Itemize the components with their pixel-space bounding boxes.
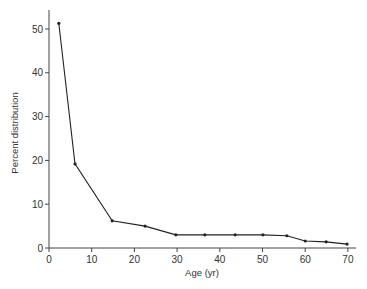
series-line [59,23,347,244]
data-point [304,239,307,242]
x-tick-label: 60 [300,254,312,265]
data-point [143,225,146,228]
y-tick-label: 10 [32,199,44,210]
y-axis-label: Percent distribution [9,92,20,173]
data-point [203,233,206,236]
line-chart: 01020304050 010203040506070 Age (yr) Per… [0,0,367,289]
data-point [325,240,328,243]
data-point [174,233,177,236]
x-tick-label: 20 [129,254,141,265]
data-point [57,22,60,25]
x-tick-label: 70 [342,254,354,265]
x-axis-label: Age (yr) [185,267,219,278]
data-point [73,162,76,165]
data-point [261,233,264,236]
x-tick-label: 0 [46,254,52,265]
y-axis: 01020304050 [32,10,49,254]
y-tick-label: 30 [32,111,44,122]
x-tick-label: 30 [172,254,184,265]
x-axis: 010203040506070 [46,248,356,265]
data-point [234,233,237,236]
data-point [345,242,348,245]
x-tick-label: 10 [86,254,98,265]
y-tick-label: 50 [32,24,44,35]
data-point [111,219,114,222]
data-series [57,22,348,246]
x-tick-label: 40 [214,254,226,265]
y-tick-label: 40 [32,67,44,78]
x-tick-label: 50 [257,254,269,265]
data-point [285,234,288,237]
y-tick-label: 20 [32,155,44,166]
y-tick-label: 0 [37,243,43,254]
